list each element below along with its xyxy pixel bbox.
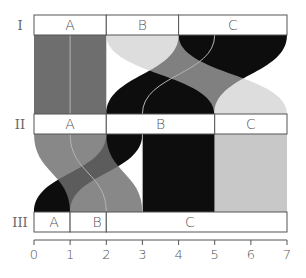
tick-label-3: 3	[138, 247, 146, 262]
row-label-i: I	[17, 18, 22, 33]
segment-label-iii-c: C	[185, 214, 195, 230]
segment-label-iii-b: B	[92, 214, 101, 230]
segment-label-i-c: C	[228, 17, 238, 33]
row-label-ii: II	[15, 117, 25, 132]
flows-ii-to-iii	[34, 134, 287, 212]
row-label-iii: III	[12, 215, 27, 230]
axis-ticks	[34, 240, 287, 245]
segment-label-ii-b: B	[156, 116, 165, 132]
row-i: I A B C	[17, 15, 287, 35]
segment-label-i-a: A	[65, 17, 75, 33]
segment-label-iii-a: A	[49, 214, 59, 230]
segment-iii-c	[106, 212, 287, 232]
x-axis: 0 1 2 3 4 5 6 7	[30, 240, 291, 262]
flow-light-c-straight	[215, 134, 287, 212]
segment-label-i-b: B	[138, 17, 147, 33]
tick-label-6: 6	[247, 247, 255, 262]
tick-label-5: 5	[211, 247, 219, 262]
alluvial-diagram: I A B C II A B C III A B C	[0, 0, 306, 278]
row-ii: II A B C	[15, 114, 287, 134]
tick-label-0: 0	[30, 247, 38, 262]
tick-label-4: 4	[174, 247, 182, 262]
flow-black-b-straight	[142, 134, 214, 212]
segment-label-ii-c: C	[246, 116, 256, 132]
tick-label-1: 1	[66, 247, 74, 262]
flows-i-to-ii	[34, 35, 287, 114]
tick-label-7: 7	[283, 247, 291, 262]
tick-label-2: 2	[102, 247, 110, 262]
segment-label-ii-a: A	[65, 116, 75, 132]
row-iii: III A B C	[12, 212, 287, 232]
